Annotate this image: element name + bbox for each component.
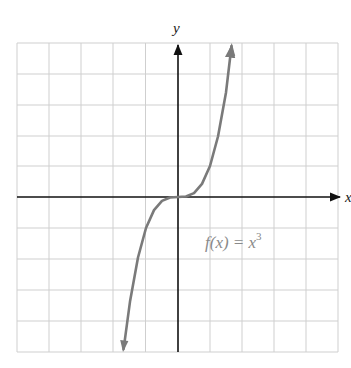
x-axis-label: x [344,189,351,205]
function-label: f(x) = x3 [205,230,262,252]
function-label-exponent: 3 [256,230,262,242]
cubic-function-graph: y x f(x) = x3 [0,0,351,368]
function-label-main: f(x) = x [205,233,257,252]
y-axis-label: y [171,20,180,36]
curve-arrow-top-icon [227,43,235,56]
